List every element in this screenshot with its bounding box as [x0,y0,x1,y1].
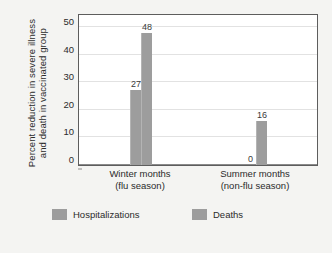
x-category-line-1: Summer months [220,168,290,180]
y-axis-ticks: 01020304050 [56,18,78,166]
bar: 27 [130,90,141,165]
gridline [79,109,317,110]
legend-swatch-icon [52,209,67,220]
y-axis-title: Percent reduction in severe illness and … [14,8,60,178]
legend-item[interactable]: Hospitalizations [52,209,140,220]
gridline [79,26,317,27]
x-category-line-1: Winter months [109,168,170,180]
y-axis-title-line-2: and death in vaccinated group [37,28,49,158]
y-tick-label: 30 [63,71,74,82]
bar-value-label: 0 [248,154,253,164]
x-category-line-2: (non-flu season) [220,180,290,192]
bar-value-label: 16 [257,110,267,120]
legend-swatch-icon [192,209,207,220]
plot-area: 2748016 [78,14,318,166]
y-tick-label: 10 [63,126,74,137]
gridline [79,54,317,55]
y-tick-label: 0 [69,154,74,165]
y-axis-title-line-1: Percent reduction in severe illness [26,19,38,167]
legend-label: Hospitalizations [73,209,140,220]
x-category-label: Summer months(non-flu season) [220,168,290,192]
y-tick-label: 20 [63,98,74,109]
bar: 48 [141,33,152,165]
x-category-label: Winter months(flu season) [109,168,170,192]
legend-item[interactable]: Deaths [192,209,243,220]
gridline [79,136,317,137]
chart-figure: Percent reduction in severe illness and … [0,0,332,253]
bar-value-label: 27 [131,79,141,89]
y-tick-label: 40 [63,43,74,54]
chart-legend: HospitalizationsDeaths [52,209,302,227]
bar: 16 [256,121,267,165]
axis-baseline [79,164,317,165]
gridline [79,81,317,82]
y-tick-label: 50 [63,16,74,27]
x-category-line-2: (flu season) [109,180,170,192]
plot-inner: 2748016 [79,19,317,165]
x-axis-categories: Winter months(flu season)Summer months(n… [78,168,318,198]
legend-label: Deaths [213,209,243,220]
bar-value-label: 48 [142,22,152,32]
